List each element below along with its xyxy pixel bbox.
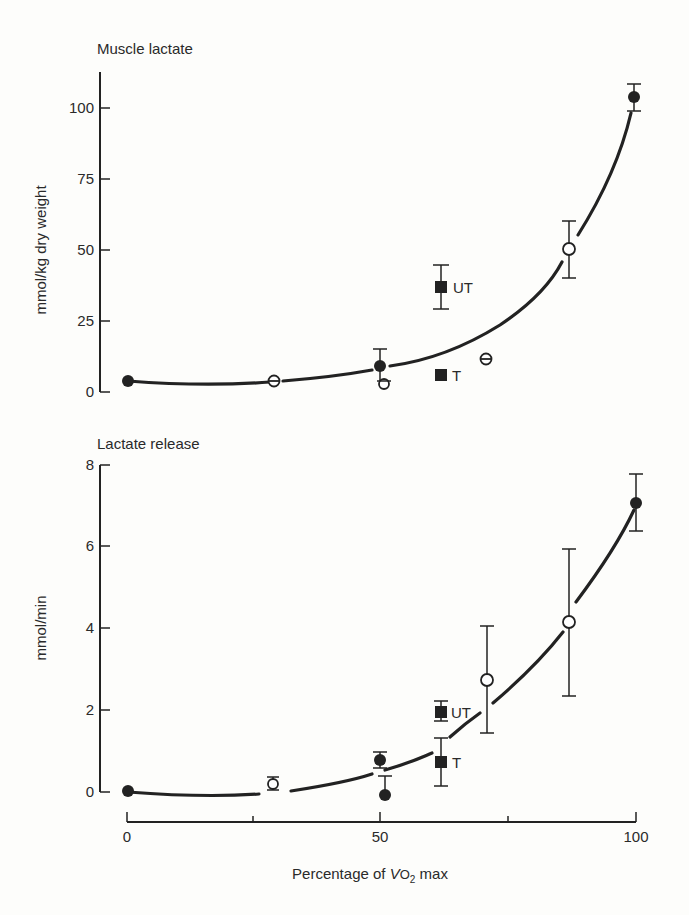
label-t: T — [452, 754, 461, 771]
lactate-release-chart: Lactate release 0 2 4 6 8 mmol/min — [32, 435, 643, 801]
top-markers — [122, 91, 640, 389]
marker-filled-circle — [379, 789, 391, 801]
x-ticks — [127, 812, 636, 822]
label-ut: UT — [451, 704, 471, 721]
top-error-bars — [373, 84, 641, 383]
bottom-y-tick-labels: 0 2 4 6 8 — [86, 456, 94, 800]
top-y-axis-label: mmol/kg dry weight — [32, 185, 49, 315]
marker-filled-circle — [122, 375, 134, 387]
tick-label: 75 — [77, 170, 94, 187]
bottom-error-bars — [267, 474, 643, 795]
marker-square-ut — [435, 706, 447, 718]
marker-filled-circle — [630, 497, 642, 509]
marker-filled-circle — [122, 785, 134, 797]
tick-label: 0 — [86, 783, 94, 800]
x-axis: 0 50 100 Percentage of VO2 max — [123, 812, 649, 885]
tick-label: 50 — [372, 828, 389, 845]
tick-label: 6 — [86, 537, 94, 554]
marker-open-circle — [481, 674, 493, 686]
label-ut: UT — [453, 279, 473, 296]
marker-open-circle — [563, 616, 575, 628]
marker-barred-circle — [269, 376, 280, 387]
tick-label: 50 — [77, 241, 94, 258]
muscle-lactate-chart: Muscle lactate 0 25 50 75 100 mmol/kg dr… — [32, 40, 641, 400]
top-fit-curve — [128, 113, 631, 384]
tick-label: 0 — [123, 828, 131, 845]
top-y-tick-labels: 0 25 50 75 100 — [69, 99, 94, 400]
marker-open-circle — [563, 243, 575, 255]
x-tick-labels: 0 50 100 — [123, 828, 649, 845]
bottom-y-axis-label: mmol/min — [32, 595, 49, 660]
tick-label: 2 — [86, 701, 94, 718]
marker-filled-circle — [628, 91, 640, 103]
top-chart-title: Muscle lactate — [97, 40, 193, 57]
tick-label: 0 — [86, 383, 94, 400]
figure: Muscle lactate 0 25 50 75 100 mmol/kg dr… — [0, 0, 689, 915]
bottom-markers — [122, 497, 642, 801]
bottom-y-ticks — [100, 465, 110, 792]
label-t: T — [452, 367, 461, 384]
marker-square-ut — [435, 281, 447, 293]
marker-open-circle — [377, 379, 391, 389]
top-y-ticks — [100, 108, 110, 392]
bottom-chart-title: Lactate release — [97, 435, 200, 452]
marker-filled-circle — [374, 754, 386, 766]
tick-label: 4 — [86, 619, 94, 636]
marker-square-t — [435, 369, 447, 381]
marker-open-circle — [268, 779, 278, 789]
tick-label: 100 — [623, 828, 648, 845]
x-axis-label: Percentage of VO2 max — [292, 865, 448, 885]
marker-filled-circle — [374, 360, 386, 372]
tick-label: 100 — [69, 99, 94, 116]
tick-label: 8 — [86, 456, 94, 473]
tick-label: 25 — [77, 312, 94, 329]
marker-square-t — [435, 756, 447, 768]
marker-barred-circle — [481, 354, 492, 365]
